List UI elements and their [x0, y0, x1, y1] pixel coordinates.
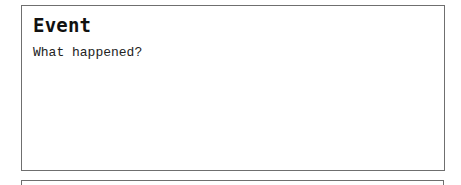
next-card	[21, 180, 444, 185]
event-card: Event What happened?	[21, 5, 445, 171]
event-title: Event	[33, 14, 91, 36]
event-prompt: What happened?	[33, 45, 142, 60]
